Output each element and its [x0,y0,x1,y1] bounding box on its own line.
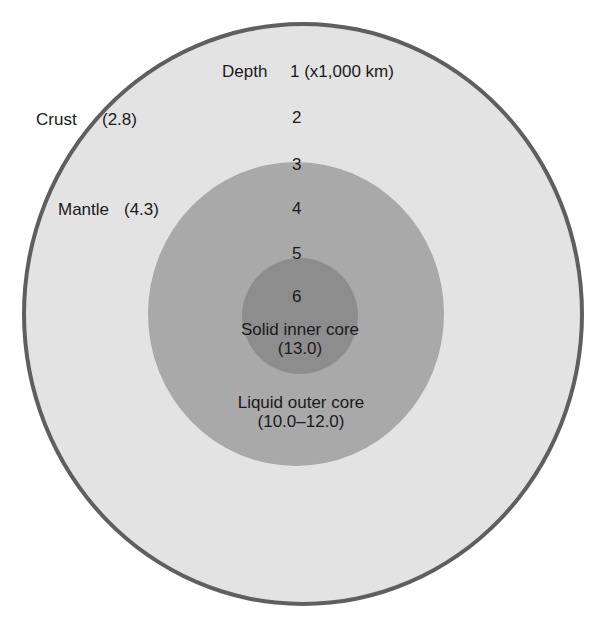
depth-tick-2: 2 [292,108,301,127]
depth-tick-4: 4 [292,199,301,218]
depth-tick-1: 1 (x1,000 km) [290,62,394,81]
mantle-density: (4.3) [124,200,159,219]
outer-core-density: (10.0–12.0) [258,412,345,431]
depth-tick-3: 3 [292,155,301,174]
depth-tick-6: 6 [292,287,301,306]
outer-core-label: Liquid outer core [238,393,365,412]
depth-tick-5: 5 [292,244,301,263]
crust-label: Crust [36,110,77,129]
crust-density: (2.8) [102,110,137,129]
depth-label: Depth [222,62,267,81]
earth-diagram: Depth 1 (x1,000 km) 2 3 4 5 6 Crust (2.8… [0,0,594,626]
inner-core-density: (13.0) [278,339,322,358]
inner-core-label: Solid inner core [241,320,359,339]
mantle-label: Mantle [58,200,109,219]
